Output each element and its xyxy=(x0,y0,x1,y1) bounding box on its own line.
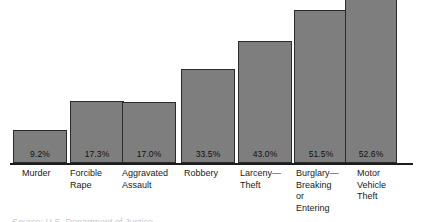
category-label-larceny-theft: Larceny— Theft xyxy=(240,168,296,191)
bar-murder: 9.2% xyxy=(13,130,67,163)
source-note: Source: U.S. Department of Justice xyxy=(12,217,412,222)
category-labels: Murder Forcible Rape Aggravated Assault … xyxy=(0,168,423,216)
bar-value-label: 51.5% xyxy=(295,149,347,159)
x-axis-baseline xyxy=(10,163,413,165)
bar-larceny-theft: 43.0% xyxy=(238,41,292,163)
bar-column: 17.3% xyxy=(70,0,124,163)
bar-column: 51.5% xyxy=(294,0,348,163)
bar-value-label: 17.0% xyxy=(123,149,175,159)
bar-column: 43.0% xyxy=(238,0,292,163)
bar-value-label: 43.0% xyxy=(239,149,291,159)
bar-robbery: 33.5% xyxy=(181,69,235,163)
category-label-robbery: Robbery xyxy=(184,168,240,180)
bar-forcible-rape: 17.3% xyxy=(70,101,124,163)
bar-motor-vehicle-theft: 52.6% xyxy=(345,0,397,163)
category-label-burglary-breaking-or-entering: Burglary— Breaking or Entering xyxy=(296,168,354,214)
category-label-aggravated-assault: Aggravated Assault xyxy=(122,168,184,191)
bar-burglary-breaking-or-entering: 51.5% xyxy=(294,10,348,163)
bar-value-label: 9.2% xyxy=(14,149,66,159)
category-label-motor-vehicle-theft: Motor Vehicle Theft xyxy=(357,168,415,203)
bar-column: 52.6% xyxy=(345,0,397,163)
bar-value-label: 52.6% xyxy=(346,149,396,159)
bar-column: 9.2% xyxy=(13,0,67,163)
bar-chart: 9.2% 17.3% 17.0% 33.5% 43.0% 51.5% xyxy=(0,0,423,222)
plot-area: 9.2% 17.3% 17.0% 33.5% 43.0% 51.5% xyxy=(0,0,423,164)
bar-aggravated-assault: 17.0% xyxy=(122,102,176,163)
bar-value-label: 33.5% xyxy=(182,149,234,159)
bar-column: 33.5% xyxy=(181,0,235,163)
category-label-forcible-rape: Forcible Rape xyxy=(70,168,126,191)
bar-value-label: 17.3% xyxy=(71,149,123,159)
bar-column: 17.0% xyxy=(122,0,176,163)
